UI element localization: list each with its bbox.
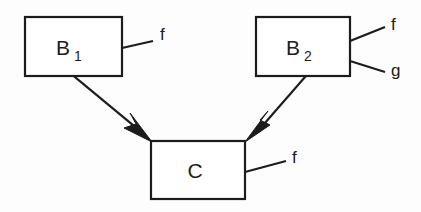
- inheritance-diagram: B 1 B 2 C f f g f: [0, 0, 421, 212]
- arrowhead-b2-to-c: [245, 111, 270, 142]
- node-box-b1[interactable]: [25, 17, 122, 76]
- leader-line-b2-g: [350, 61, 385, 72]
- node-label-b2: B: [286, 36, 300, 59]
- method-label-b1-f: f: [160, 25, 165, 44]
- leader-line-c-f: [245, 161, 286, 172]
- node-label-b2-subscript: 2: [304, 48, 312, 64]
- method-label-b2-f: f: [391, 15, 396, 34]
- node-label-b1: B: [56, 36, 70, 59]
- diagram-canvas: B 1 B 2 C f f g f: [0, 0, 421, 212]
- node-label-c: C: [187, 159, 202, 182]
- method-label-b2-g: g: [391, 61, 400, 80]
- leader-line-b2-f: [350, 27, 385, 41]
- arrowhead-b1-to-c: [124, 113, 152, 142]
- leader-line-b1-f: [122, 41, 153, 48]
- edge-line-b1-to-c: [75, 77, 140, 131]
- method-label-c-f: f: [292, 148, 297, 167]
- node-box-b2[interactable]: [256, 17, 350, 76]
- node-label-b1-subscript: 1: [74, 48, 82, 64]
